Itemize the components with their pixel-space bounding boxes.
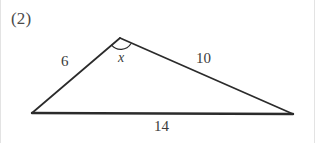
- figure-page: (2) 6 10 14 x: [0, 0, 315, 143]
- angle-label-x: x: [118, 51, 124, 65]
- side-length-label-base: 14: [154, 119, 169, 134]
- apex-angle-arc-icon: [112, 44, 131, 50]
- triangle-side-base: [32, 113, 293, 114]
- side-length-label-right: 10: [196, 51, 211, 66]
- problem-number: (2): [11, 10, 31, 27]
- triangle-side-left: [32, 38, 120, 113]
- side-length-label-left: 6: [61, 54, 69, 69]
